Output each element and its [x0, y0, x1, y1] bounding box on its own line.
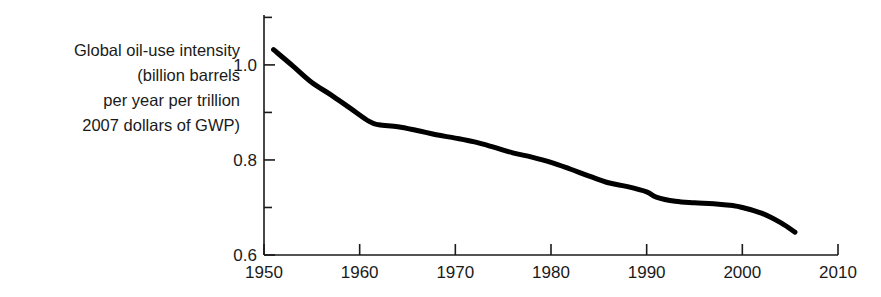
x-tick-label: 1990	[628, 263, 666, 282]
y-axis-tick-labels: 0.60.81.0	[233, 56, 257, 265]
line-chart-plot: 0.60.81.0 1950196019701980199020002010	[0, 0, 881, 297]
x-tick-label: 2010	[819, 263, 857, 282]
y-tick-label: 0.8	[233, 151, 257, 170]
y-axis-tick-marks	[264, 17, 275, 255]
y-tick-label: 1.0	[233, 56, 257, 75]
x-tick-label: 1980	[532, 263, 570, 282]
x-tick-label: 1970	[436, 263, 474, 282]
x-axis-tick-marks	[264, 244, 838, 255]
x-tick-label: 1960	[341, 263, 379, 282]
axes	[264, 15, 838, 255]
x-tick-label: 1950	[245, 263, 283, 282]
data-series-line	[274, 50, 795, 233]
x-axis-tick-labels: 1950196019701980199020002010	[245, 263, 857, 282]
x-tick-label: 2000	[723, 263, 761, 282]
chart-figure: Global oil-use intensity (billion barrel…	[0, 0, 881, 297]
